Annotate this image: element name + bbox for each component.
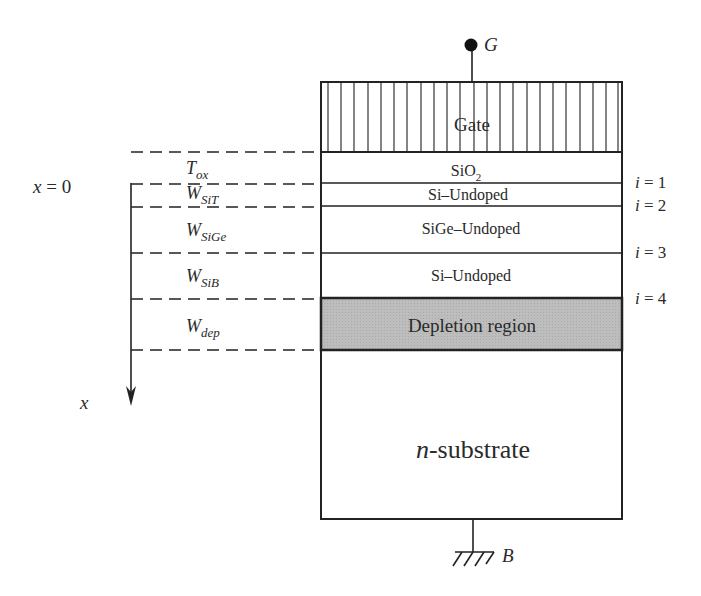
x-axis-label: x — [79, 392, 89, 413]
dashed-guides — [131, 152, 321, 350]
thickness-label-wsige: WSiGe — [186, 220, 227, 244]
substrate-label: n-substrate — [416, 435, 530, 464]
mos-structure-diagram: G Gate SiO2 Si–Undoped S — [0, 0, 701, 596]
thickness-label-wdep: Wdep — [186, 316, 220, 340]
gate-terminal-label: G — [484, 34, 498, 55]
interface-label-1: i = 1 — [635, 173, 666, 192]
thickness-label-wsib: WSiB — [186, 266, 219, 290]
gate-layer: Gate — [321, 82, 622, 152]
oxide-label: SiO2 — [451, 162, 481, 183]
gate-contact-dot-icon — [465, 39, 478, 52]
interface-label-4: i = 4 — [635, 289, 667, 308]
gate-terminal: G — [465, 34, 499, 82]
interface-label-3: i = 3 — [635, 243, 666, 262]
depletion-label: Depletion region — [408, 315, 537, 336]
si-top-label: Si–Undoped — [428, 186, 508, 204]
gate-label: Gate — [454, 114, 490, 135]
interface-labels: i = 1 i = 2 i = 3 i = 4 — [635, 173, 667, 308]
ground-icon — [453, 552, 494, 566]
si-bottom-label: Si–Undoped — [431, 267, 511, 285]
sige-label: SiGe–Undoped — [422, 220, 521, 238]
body-terminal: B — [453, 519, 514, 566]
thickness-label-tox: Tox — [186, 158, 209, 182]
origin-label: x = 0 — [32, 176, 71, 197]
body-terminal-label: B — [502, 545, 514, 566]
x-axis-arrow — [126, 183, 136, 406]
interface-label-2: i = 2 — [635, 196, 666, 215]
thickness-label-wsit: WSiT — [186, 183, 219, 207]
thickness-labels: Tox WSiT WSiGe WSiB Wdep — [186, 158, 227, 340]
layer-stack: SiO2 Si–Undoped SiGe–Undoped Si–Undoped … — [321, 152, 622, 519]
